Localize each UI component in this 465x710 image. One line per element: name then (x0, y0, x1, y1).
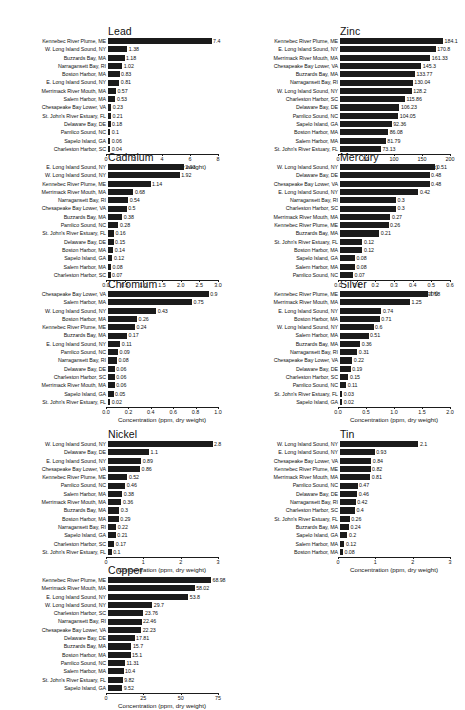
category-label: Chesapeake Bay Lower, VA (2, 465, 108, 473)
bar-track: 0.17 (108, 540, 218, 548)
bar-value-label: 0.21 (116, 531, 128, 539)
chart-row: St. John's River Estuary, FL0.12 (234, 238, 450, 246)
bar-track: 10.4 (108, 667, 218, 675)
chart-row: E. Long Island Sound, NY170.8 (234, 45, 450, 53)
category-label: Salem Harbor, MA (2, 490, 108, 498)
category-label: Boston Harbor, MA (2, 70, 108, 78)
category-label: Narragansett Bay, RI (2, 196, 108, 204)
bar-value-label: 0.03 (342, 390, 354, 398)
bar-value-label: 0.15 (348, 373, 360, 381)
bar (340, 181, 430, 187)
category-label: Sapelo Island, GA (2, 254, 108, 262)
bar-track: 0.2 (340, 531, 450, 539)
bar (340, 524, 349, 530)
category-label: W. Long Island Sound, NY (234, 323, 340, 331)
bar-track: 58.02 (108, 584, 218, 592)
bar-track: 0.21 (108, 112, 218, 120)
bar-value-label: 81.79 (386, 137, 401, 145)
bar-value-label: 86.08 (388, 128, 403, 136)
chart-row: Chesapeake Bay Lower, VA0.23 (2, 103, 218, 111)
bar-track: 0.11 (108, 340, 218, 348)
bar (108, 594, 188, 600)
chart-rows-chromium: Chesapeake Bay Lower, VA0.9Salem Harbor,… (2, 290, 218, 406)
bar-value-label: 53.8 (188, 593, 200, 601)
chart-row: Sapelo Island, GA0.06 (2, 137, 218, 145)
bar-value-label: 0.24 (135, 323, 147, 331)
bar (340, 255, 355, 261)
chart-row: Chesapeake Bay Lower, VA0.84 (234, 457, 450, 465)
bar-value-label: 0.1 (112, 548, 121, 556)
chart-row: Charleston Harbor, SC0.15 (234, 373, 450, 381)
bar-value-label: 0.5 (127, 204, 136, 212)
bar-value-label: 0.93 (375, 448, 387, 456)
bar-value-label: 0.74 (381, 307, 393, 315)
category-label: Narragansett Bay, RI (234, 78, 340, 86)
category-label: Merrimack River Mouth, MA (234, 298, 340, 306)
bar-value-label: 0.21 (111, 112, 123, 120)
chart-row: Delaware Bay, DE106.23 (234, 103, 450, 111)
bar-value-label: 0.9 (209, 290, 218, 298)
bar-track: 0.08 (340, 263, 450, 271)
axis-line (106, 693, 218, 694)
category-label: St. John's River Estuary, FL (2, 398, 108, 406)
bar-value-label: 23.76 (143, 609, 158, 617)
bar-track: 0.28 (108, 221, 218, 229)
category-label: Sapelo Island, GA (234, 254, 340, 262)
bar-value-label: 0.36 (360, 340, 372, 348)
bar (340, 357, 352, 363)
category-label: Pamlico Sound, NC (2, 128, 108, 136)
category-label: Chesapeake Bay Lower, VA (2, 290, 108, 298)
chart-row: E. Long Island Sound, NY0.81 (2, 78, 218, 86)
bar-track: 0.08 (108, 263, 218, 271)
chart-row: Narragansett Bay, RI22.46 (2, 617, 218, 625)
chart-row: Sapelo Island, GA0.21 (2, 531, 218, 539)
category-label: W. Long Island Sound, NY (2, 440, 108, 448)
chart-title-copper: Copper (108, 565, 143, 576)
bar (108, 181, 151, 187)
bar-value-label: 0.02 (342, 398, 354, 406)
bar-value-label: 0.17 (127, 331, 139, 339)
bar (108, 316, 137, 322)
chart-row: Delaware Bay, DE1.1 (2, 448, 218, 456)
bar (108, 627, 141, 633)
bar-track: 0.06 (108, 381, 218, 389)
bar-value-label: 0.06 (110, 137, 122, 145)
chart-row: Sapelo Island, GA92.36 (234, 120, 450, 128)
chart-row: Boston Harbor, MA86.08 (234, 128, 450, 136)
bar-value-label: 0.48 (430, 180, 442, 188)
chart-row: Narragansett Bay, RI0.3 (234, 196, 450, 204)
category-label: Pamlico Sound, NC (234, 271, 340, 279)
bar-track: 81.79 (340, 137, 450, 145)
chart-row: Delaware Bay, DE0.46 (234, 490, 450, 498)
category-label: Charleston Harbor, SC (2, 540, 108, 548)
bar (340, 333, 369, 339)
bar-value-label: 1.18 (125, 54, 137, 62)
chart-title-cadmium: Cadmium (108, 152, 154, 163)
chart-row: Delaware Bay, DE0.06 (2, 365, 218, 373)
chart-row: Buzzards Bay, MA15.7 (2, 642, 218, 650)
bar (108, 499, 121, 505)
category-label: Delaware Bay, DE (234, 490, 340, 498)
chart-row: W. Long Island Sound, NY1.92 (2, 171, 218, 179)
bar (340, 138, 386, 144)
chart-row: Chesapeake Bay Lower, VA0.9 (2, 290, 218, 298)
bar-track: 0.26 (340, 221, 450, 229)
axis-line (106, 557, 218, 558)
bar-track: 161.33 (340, 54, 450, 62)
bar-value-label: 0.89 (141, 457, 153, 465)
bar (340, 88, 412, 94)
chart-row: Chesapeake Bay Lower, VA0.86 (2, 465, 218, 473)
bar (340, 308, 381, 314)
chart-row: Kennebec River Plume, ME1.14 (2, 180, 218, 188)
bar-value-label: 0.05 (114, 390, 126, 398)
chart-row: Chesapeake Bay Lower, VA22.23 (2, 626, 218, 634)
bar-track: 0.43 (108, 307, 218, 315)
category-label: Boston Harbor, MA (2, 651, 108, 659)
bar-value-label: 0.22 (116, 523, 128, 531)
bar (108, 96, 115, 102)
category-label: Narragansett Bay, RI (2, 523, 108, 531)
category-label: Kennebec River Plume, ME (234, 221, 340, 229)
bar-value-label: 115.86 (405, 95, 422, 103)
category-label: E. Long Island Sound, NY (234, 188, 340, 196)
chart-row: Buzzards Bay, MA0.24 (234, 523, 450, 531)
